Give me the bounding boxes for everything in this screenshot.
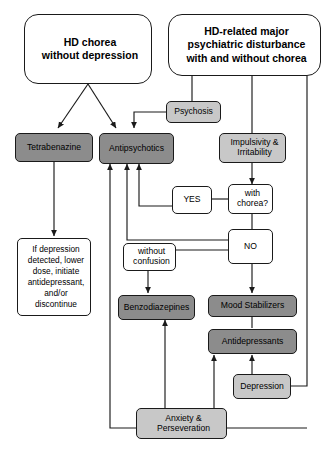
node-hd-chorea-line1: HD chorea bbox=[27, 36, 153, 49]
node-psychosis[interactable]: Psychosis bbox=[166, 101, 221, 123]
node-depression[interactable]: Depression bbox=[233, 374, 291, 399]
node-hd-chorea[interactable]: HD chorea without depression bbox=[24, 14, 152, 84]
node-if-depression-line5: and/or bbox=[20, 288, 92, 299]
node-if-depression-line3: dose, initiate bbox=[20, 266, 92, 277]
node-anxiety-perseveration[interactable]: Anxiety & Perseveration bbox=[136, 408, 227, 439]
edge-yes-antipsychotics bbox=[139, 164, 172, 206]
node-without-confusion-line2: confusion bbox=[126, 257, 177, 267]
node-if-depression-line1: If depression bbox=[20, 244, 92, 255]
node-without-confusion[interactable]: without confusion bbox=[123, 243, 176, 271]
node-yes[interactable]: YES bbox=[172, 186, 212, 214]
edge-hdchorea-tetrabenazine bbox=[58, 84, 88, 128]
node-if-depression-line6: discontinue bbox=[20, 299, 92, 310]
node-anxiety-line2: Perseveration bbox=[139, 424, 228, 434]
node-with-chorea-line2: chorea? bbox=[231, 199, 274, 209]
node-no-label: NO bbox=[229, 242, 272, 252]
flowchart-diagram: HD chorea without depression HD-related … bbox=[0, 0, 335, 455]
edge-hdchorea-antipsychotics bbox=[88, 84, 116, 128]
node-if-depression[interactable]: If depression detected, lower dose, init… bbox=[17, 238, 91, 316]
node-depression-label: Depression bbox=[234, 382, 290, 392]
node-hd-related[interactable]: HD-related major psychiatric disturbance… bbox=[168, 14, 321, 76]
node-hd-related-line3: with and without chorea bbox=[171, 52, 322, 65]
node-benzodiazepines-label: Benzodiazepines bbox=[119, 303, 194, 313]
node-no[interactable]: NO bbox=[228, 229, 273, 264]
node-if-depression-line4: antidepressant, bbox=[20, 277, 92, 288]
node-impulsivity-irritability[interactable]: Impulsivity & Irritability bbox=[219, 133, 286, 163]
node-with-chorea[interactable]: with chorea? bbox=[228, 184, 273, 214]
node-psychosis-label: Psychosis bbox=[167, 107, 220, 117]
node-tetrabenazine[interactable]: Tetrabenazine bbox=[15, 133, 93, 162]
node-benzodiazepines[interactable]: Benzodiazepines bbox=[118, 295, 195, 320]
node-mood-stabilizers[interactable]: Mood Stabilizers bbox=[208, 295, 297, 317]
node-antidepressants-label: Antidepressants bbox=[209, 337, 296, 347]
edge-psychosis-antipsychotics bbox=[134, 112, 166, 128]
node-if-depression-line2: detected, lower bbox=[20, 255, 92, 266]
node-mood-stabilizers-label: Mood Stabilizers bbox=[209, 301, 296, 311]
node-impulsivity-line2: Irritability bbox=[222, 148, 287, 158]
node-hd-related-line1: HD-related major bbox=[171, 25, 322, 38]
node-antidepressants[interactable]: Antidepressants bbox=[208, 329, 297, 354]
node-hd-chorea-line2: without depression bbox=[27, 49, 153, 62]
node-antipsychotics-label: Antipsychotics bbox=[100, 144, 173, 154]
node-tetrabenazine-label: Tetrabenazine bbox=[16, 143, 92, 153]
node-yes-label: YES bbox=[173, 195, 211, 205]
node-hd-related-line2: psychiatric disturbance bbox=[171, 38, 322, 51]
node-antipsychotics[interactable]: Antipsychotics bbox=[99, 133, 174, 164]
